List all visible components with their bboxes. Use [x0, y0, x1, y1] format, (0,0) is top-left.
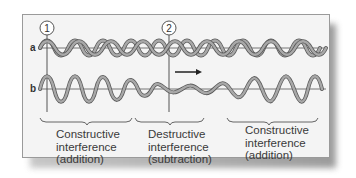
region-caption-constructive-1: Constructive interference (addition)	[56, 128, 120, 166]
svg-text:2: 2	[166, 23, 172, 34]
marker-1: 1	[40, 21, 54, 112]
row-label-b: b	[30, 83, 36, 94]
svg-text:1: 1	[44, 23, 50, 34]
resultant-wave-b	[40, 76, 322, 102]
marker-2: 2	[162, 21, 176, 112]
direction-arrow-icon	[175, 69, 202, 75]
row-label-a: a	[30, 42, 36, 53]
region-caption-constructive-2: Constructive interference (addition)	[245, 124, 309, 162]
region-caption-destructive: Destructive interference (subtraction)	[148, 128, 212, 166]
